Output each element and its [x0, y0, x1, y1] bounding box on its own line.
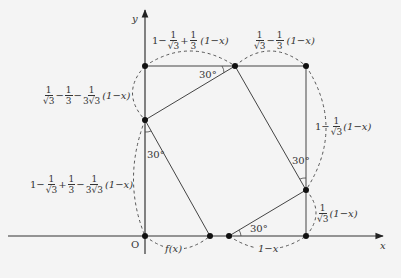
text: (1−x): [200, 36, 228, 46]
brace-top-left: [145, 51, 235, 66]
numerator: 1: [90, 174, 98, 185]
fraction: 1√3: [317, 203, 328, 224]
numerator: 1: [48, 174, 56, 185]
point-bottom-1: [207, 233, 213, 239]
denominator: √3: [168, 41, 179, 51]
denominator: √3: [46, 185, 57, 195]
angle-arc-top: [222, 66, 224, 73]
label-bottom-right-segment: 1−x: [256, 244, 280, 254]
text: (1−x): [102, 91, 130, 101]
label-top-left-segment: 1− 1√3 + 13 (1−x): [152, 30, 229, 51]
angle-label-left: 30°: [147, 150, 165, 160]
operator: +: [58, 180, 66, 190]
point-origin: [142, 233, 148, 239]
text: (1−x): [329, 209, 357, 219]
denominator: 3: [69, 185, 75, 195]
text: 1−: [315, 122, 330, 132]
y-axis-label: y: [132, 14, 138, 24]
operator: −: [266, 36, 274, 46]
brace-left-upper: [133, 66, 146, 120]
numerator: 1: [256, 30, 264, 41]
label-bottom-left-segment: f(x): [163, 244, 184, 254]
fraction: 13: [65, 85, 73, 106]
point-right: [303, 187, 309, 193]
fraction: 13√3: [83, 85, 100, 106]
operator: −: [76, 180, 84, 190]
numerator: 1: [170, 30, 178, 41]
numerator: 1: [319, 203, 327, 214]
denominator: 3: [277, 41, 283, 51]
angle-arc-left: [145, 131, 151, 132]
brace-right-lower: [306, 190, 316, 236]
fraction: 1√3: [43, 85, 54, 106]
angle-label-bottom: 30°: [250, 224, 268, 234]
label-left-upper-segment: 1√3 − 13 − 13√3 (1−x): [42, 85, 130, 106]
point-left: [142, 117, 148, 123]
denominator: 3√3: [83, 96, 100, 106]
point-bottom-2: [226, 233, 232, 239]
inner-edge-left: [145, 120, 210, 236]
text: 1−: [152, 36, 167, 46]
numerator: 1: [276, 30, 284, 41]
fraction: 1√3: [254, 30, 265, 51]
angle-arc-bottom: [239, 230, 241, 236]
numerator: 1: [333, 116, 341, 127]
text: (1−x): [287, 36, 315, 46]
text: (1−x): [343, 122, 371, 132]
angle-label-top: 30°: [199, 70, 217, 80]
text: (1−x): [105, 180, 133, 190]
angle-arc-right: [300, 178, 306, 179]
origin-label: O: [131, 240, 139, 250]
fraction: 1√3: [46, 174, 57, 195]
numerator: 1: [65, 85, 73, 96]
label-left-lower-segment: 1− 1√3 + 13 − 13√3 (1−x): [30, 174, 133, 195]
operator: +: [180, 36, 188, 46]
numerator: 1: [45, 85, 53, 96]
label-right-upper-segment: 1− 1√3 (1−x): [315, 116, 371, 137]
label-top-right-segment: 1√3 − 13 (1−x): [253, 30, 315, 51]
text: 1−: [30, 180, 45, 190]
fraction: 1√3: [168, 30, 179, 51]
x-axis-label: x: [380, 241, 386, 251]
point-top: [232, 63, 238, 69]
point-top-left-corner: [142, 63, 148, 69]
denominator: √3: [43, 96, 54, 106]
inner-edge-right: [235, 66, 306, 190]
denominator: 3: [66, 96, 72, 106]
denominator: √3: [254, 41, 265, 51]
brace-top-right: [235, 51, 306, 66]
inner-edge-top: [145, 66, 235, 120]
point-top-right-corner: [303, 63, 309, 69]
fraction: 13: [276, 30, 284, 51]
angle-label-right: 30°: [292, 156, 310, 166]
denominator: 3√3: [86, 185, 103, 195]
denominator: 3: [191, 41, 197, 51]
point-bottom-right-corner: [303, 233, 309, 239]
fraction: 13: [68, 174, 76, 195]
label-right-lower-segment: 1√3 (1−x): [316, 203, 358, 224]
denominator: √3: [317, 214, 328, 224]
numerator: 1: [88, 85, 96, 96]
fraction: 13√3: [86, 174, 103, 195]
numerator: 1: [68, 174, 76, 185]
operator: −: [55, 91, 63, 101]
numerator: 1: [190, 30, 198, 41]
fraction: 1√3: [331, 116, 342, 137]
denominator: √3: [331, 127, 342, 137]
operator: −: [74, 91, 82, 101]
brace-left-lower: [134, 120, 146, 236]
fraction: 13: [190, 30, 198, 51]
